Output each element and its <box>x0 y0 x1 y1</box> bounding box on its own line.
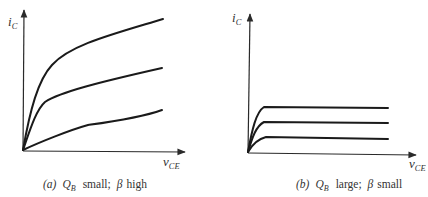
y-axis-a <box>23 10 24 151</box>
curve-a-low <box>23 110 162 150</box>
y-axis-label-a: iC <box>8 14 18 31</box>
x-axis-b <box>248 153 416 155</box>
caption-a: (a) QB small; β high <box>43 174 147 194</box>
bjt-characteristics-diagram: iC vCE (a) QB small; β high iC vCE (b) <box>0 0 428 197</box>
y-axis-label-b: iC <box>232 10 242 27</box>
curve-b-low <box>248 137 388 152</box>
curve-a-mid <box>23 68 162 150</box>
x-axis-label-a: vCE <box>163 154 180 171</box>
x-axis-label-b: vCE <box>409 156 426 173</box>
x-axis-a <box>23 151 185 152</box>
y-axis-b <box>248 14 250 153</box>
panel-a: iC vCE (a) QB small; β high <box>8 10 185 194</box>
panel-b: iC vCE (b) QB large; β small <box>232 10 426 194</box>
caption-b: (b) QB large; β small <box>296 174 402 194</box>
curve-b-high <box>248 107 388 152</box>
